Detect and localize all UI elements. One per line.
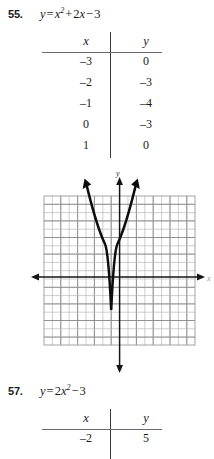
table-header-y: y [126,34,166,49]
problem-55-table: x y –3 0 –2 –3 –1 –4 0 –3 1 0 [40,32,192,158]
table-row: –1 –4 [40,94,192,115]
eq-operator-2: − [85,7,94,21]
problem-57-table: x y –2 5 [40,409,192,459]
parabola-graph: y x [0,168,214,378]
table-row: –3 0 [40,52,192,73]
table-header-x: x [66,34,106,49]
eq-operator-2: − [70,384,79,398]
cell-x: 0 [66,117,106,132]
problem-55-header: 55. y=x2+2x−3 [0,6,214,26]
eq-lhs: y [40,7,46,21]
table-header-row: x y [40,409,192,429]
table-row: –2 –3 [40,73,192,94]
problem-57-header: 57. y=2x2−3 [0,383,214,403]
cell-y: 5 [126,431,166,446]
cell-x: 1 [66,138,106,153]
eq-lhs: y [40,384,46,398]
table-row: 0 –3 [40,115,192,136]
cell-y: 0 [126,54,166,69]
graph-svg: y x [0,168,214,378]
problem-55-number: 55. [8,8,23,20]
eq-equals: = [46,384,55,398]
x-axis-arrow-left [31,273,39,280]
problem-55-equation: y=x2+2x−3 [40,7,100,22]
eq-equals: = [46,7,55,21]
eq-operator-1: + [64,7,73,21]
cell-x: –1 [66,96,106,111]
cell-y: 0 [126,138,166,153]
eq-constant: 3 [80,384,86,398]
y-axis-arrow-up [116,177,123,185]
x-axis-label: x [206,274,211,283]
cell-x: –2 [66,431,106,446]
table-header-row: x y [40,32,192,52]
problem-57-equation: y=2x2−3 [40,384,86,399]
y-axis-arrow-down [116,365,123,373]
table-header-y: y [126,411,166,426]
eq-constant: 3 [94,7,100,21]
problem-55: 55. y=x2+2x−3 x y –3 0 –2 –3 –1 –4 0 –3 … [0,6,214,158]
problem-57-number: 57. [8,385,23,397]
cell-x: –3 [66,54,106,69]
cell-y: –3 [126,117,166,132]
problem-57: 57. y=2x2−3 x y –2 5 [0,383,214,459]
table-row: 1 0 [40,136,192,157]
cell-y: –3 [126,75,166,90]
table-header-x: x [66,411,106,426]
x-axis-arrow-right [197,273,205,280]
cell-y: –4 [126,96,166,111]
y-axis-label: y [115,169,120,178]
table-row: –2 5 [40,429,192,450]
y-axis [116,177,123,373]
x-axis [31,273,205,280]
cell-x: –2 [66,75,106,90]
